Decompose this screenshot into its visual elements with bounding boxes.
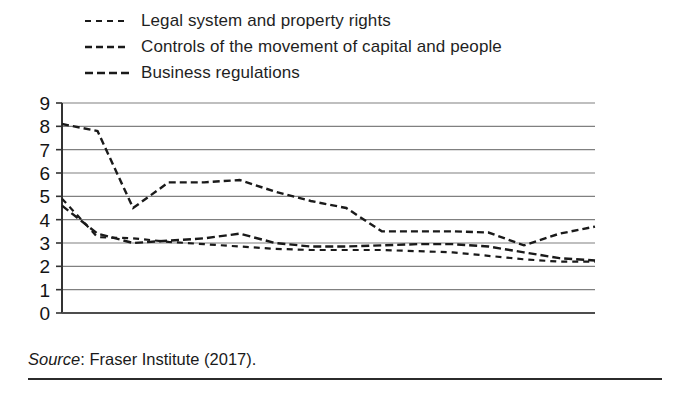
x-tick-label: 2008 [325,322,367,324]
y-tick-label: 8 [39,116,50,137]
chart-legend: Legal system and property rights Control… [84,8,604,86]
y-tick-label: 4 [39,210,50,231]
x-tick-label: 2004 [183,322,226,324]
legend-item-legal-system: Legal system and property rights [84,8,604,34]
y-axis: 0123456789 [39,93,62,324]
y-tick-label: 9 [39,93,50,114]
x-tick-label: 2010 [396,322,438,324]
x-tick-label: 2014 [538,322,581,324]
y-tick-label: 6 [39,163,50,184]
x-tick-label: 2000 [41,322,83,324]
source-label: Source [28,350,80,368]
legend-item-business-regulations: Business regulations [84,60,604,86]
data-series [62,124,595,262]
x-tick-label: 2006 [254,322,296,324]
legend-dash-icon-controls [84,46,130,49]
series-line-1 [62,199,595,262]
legend-dash-icon-business-regulations [84,72,130,75]
chart-plot-area: 0123456789 20002002200420062008201020122… [0,92,686,324]
figure-container: Legal system and property rights Control… [0,0,686,408]
legend-label-legal-system: Legal system and property rights [141,11,391,31]
source-caption: Source: Fraser Institute (2017). [28,350,256,369]
x-tick-label: 2012 [467,322,509,324]
source-text: : Fraser Institute (2017). [80,350,256,368]
x-tick-label: 2002 [112,322,154,324]
y-tick-label: 5 [39,186,50,207]
y-tick-label: 3 [39,233,50,254]
figure-bottom-rule [28,378,662,380]
y-tick-label: 0 [39,303,50,324]
legend-item-controls: Controls of the movement of capital and … [84,34,604,60]
series-line-3 [62,206,595,261]
y-tick-label: 7 [39,140,50,161]
y-tick-label: 2 [39,256,50,277]
legend-dash-icon-legal-system [84,20,130,23]
series-line-2 [62,124,595,245]
grid-lines [62,103,595,313]
legend-label-business-regulations: Business regulations [141,63,300,83]
y-tick-label: 1 [39,280,50,301]
x-axis: 20002002200420062008201020122014 [41,313,595,324]
legend-label-controls: Controls of the movement of capital and … [141,37,502,57]
